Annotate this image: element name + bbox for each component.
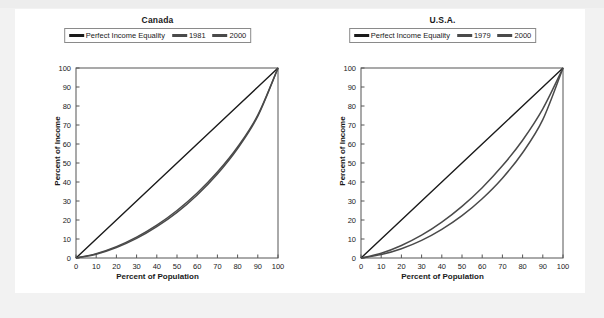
chart-panel-usa: U.S.A. Perfect Income Equality 1979 2000	[300, 9, 585, 293]
y-tick-label: 100	[58, 64, 71, 73]
y-tick-label: 0	[352, 254, 356, 263]
y-tick-label: 70	[348, 121, 356, 130]
x-tick-label: 10	[377, 262, 385, 271]
y-tick-label: 50	[63, 159, 71, 168]
x-tick-label: 10	[92, 262, 100, 271]
y-axis-title-canada: Percent of Income	[53, 116, 62, 185]
chart-panel-canada: Canada Perfect Income Equality 1981 2000	[15, 9, 300, 293]
x-tick-label: 50	[458, 262, 466, 271]
x-axis-title-usa: Percent of Population	[300, 272, 585, 281]
y-tick-label: 40	[348, 178, 356, 187]
x-tick-label: 90	[539, 262, 547, 271]
y-tick-label: 90	[348, 83, 356, 92]
x-tick-label: 100	[557, 262, 570, 271]
x-tick-label: 80	[518, 262, 526, 271]
y-tick-label: 20	[348, 216, 356, 225]
x-tick-label: 0	[74, 262, 78, 271]
y-tick-label: 100	[343, 64, 356, 73]
x-tick-label: 80	[233, 262, 241, 271]
x-tick-label: 30	[417, 262, 425, 271]
x-tick-label: 60	[478, 262, 486, 271]
y-axis-title-usa: Percent of Income	[338, 116, 347, 185]
y-tick-label: 10	[63, 235, 71, 244]
y-tick-label: 50	[348, 159, 356, 168]
y-tick-label: 90	[63, 83, 71, 92]
y-tick-label: 80	[348, 102, 356, 111]
x-tick-label: 20	[397, 262, 405, 271]
x-tick-label: 70	[213, 262, 221, 271]
chart-panels-container: Canada Perfect Income Equality 1981 2000	[15, 9, 585, 293]
y-tick-label: 10	[348, 235, 356, 244]
x-tick-label: 90	[254, 262, 262, 271]
x-tick-label: 0	[359, 262, 363, 271]
y-tick-label: 70	[63, 121, 71, 130]
y-tick-label: 0	[67, 254, 71, 263]
x-tick-label: 100	[272, 262, 285, 271]
x-axis-title-canada: Percent of Population	[15, 272, 300, 281]
x-tick-label: 20	[112, 262, 120, 271]
y-tick-label: 30	[348, 197, 356, 206]
y-tick-label: 60	[63, 140, 71, 149]
y-tick-label: 80	[63, 102, 71, 111]
x-tick-label: 50	[173, 262, 181, 271]
y-tick-label: 30	[63, 197, 71, 206]
x-tick-label: 30	[132, 262, 140, 271]
y-tick-label: 40	[63, 178, 71, 187]
y-tick-label: 60	[348, 140, 356, 149]
y-tick-label: 20	[63, 216, 71, 225]
x-tick-label: 40	[153, 262, 161, 271]
x-tick-label: 70	[498, 262, 506, 271]
x-tick-label: 40	[438, 262, 446, 271]
figure-card: Canada Perfect Income Equality 1981 2000	[15, 9, 585, 293]
x-tick-label: 60	[193, 262, 201, 271]
